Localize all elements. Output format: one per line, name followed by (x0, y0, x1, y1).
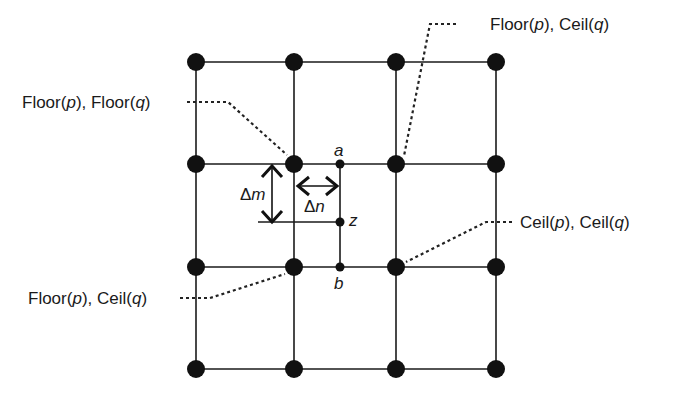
grid-node (387, 258, 405, 276)
grid-node (285, 53, 303, 71)
grid-node (487, 53, 505, 71)
leader-lines (180, 24, 512, 298)
delta-arrows (262, 166, 338, 222)
callout-text: Floor( (22, 93, 66, 112)
delta-var: n (315, 197, 324, 216)
callout-text: ), Ceil( (544, 15, 594, 34)
callout-var: p (72, 289, 81, 308)
grid-svg (0, 0, 675, 403)
label-point-a: a (334, 142, 343, 159)
grid-node (187, 53, 205, 71)
grid-node (187, 155, 205, 173)
grid-lines (196, 62, 496, 369)
grid-node (387, 360, 405, 378)
grid-node (387, 155, 405, 173)
callout-text: Floor( (28, 289, 72, 308)
callout-text: ) (603, 15, 609, 34)
delta-var: m (251, 185, 265, 204)
point-a (336, 160, 345, 169)
grid-node (285, 155, 303, 173)
grid-nodes (187, 53, 505, 378)
leader-floor-p-floor-q (187, 102, 287, 155)
callout-text: ), Ceil( (564, 213, 614, 232)
callout-var: q (614, 213, 623, 232)
label-point-b: b (334, 275, 343, 292)
callout-text: ) (624, 213, 630, 232)
label-delta-n: Δn (304, 198, 325, 215)
diagram-canvas: Floor(p), Floor(q) Floor(p), Ceil(q) Cei… (0, 0, 675, 403)
callout-floor-p-ceil-q-top: Floor(p), Ceil(q) (490, 16, 609, 33)
callout-var: p (66, 93, 75, 112)
callout-text: Floor( (490, 15, 534, 34)
label-delta-m: Δm (240, 186, 266, 203)
point-b (336, 263, 345, 272)
point-z (336, 218, 345, 227)
grid-node (487, 155, 505, 173)
grid-node (285, 360, 303, 378)
grid-node (187, 360, 205, 378)
label-point-z: z (349, 212, 358, 229)
callout-var: p (534, 15, 543, 34)
callout-text: ), Ceil( (82, 289, 132, 308)
delta-symbol: Δ (304, 197, 315, 216)
delta-symbol: Δ (240, 185, 251, 204)
grid-node (487, 360, 505, 378)
callout-text: Ceil( (520, 213, 555, 232)
callout-text: ) (141, 289, 147, 308)
callout-floor-p-floor-q: Floor(p), Floor(q) (22, 94, 151, 111)
grid-node (285, 258, 303, 276)
callout-var: p (555, 213, 564, 232)
callout-ceil-p-ceil-q: Ceil(p), Ceil(q) (520, 214, 630, 231)
callout-text: ) (145, 93, 151, 112)
grid-node (187, 258, 205, 276)
callout-text: ), Floor( (76, 93, 136, 112)
leader-floor-p-ceil-q-top (404, 24, 456, 156)
callout-var: q (132, 289, 141, 308)
callout-var: q (135, 93, 144, 112)
grid-node (487, 258, 505, 276)
grid-node (387, 53, 405, 71)
callout-floor-p-ceil-q-bottom: Floor(p), Ceil(q) (28, 290, 147, 307)
callout-var: q (594, 15, 603, 34)
